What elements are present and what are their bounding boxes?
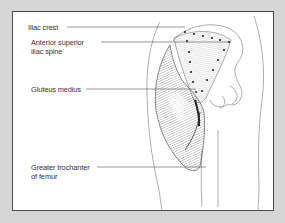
label-gluteus-medius: Gluteus medius: [31, 85, 81, 94]
label-greater-trochanter: Greater trochanter of femur: [31, 163, 90, 181]
hip-anatomy-illustration: [0, 0, 285, 223]
label-anterior-superior-iliac-spine: Anterior superior iliac spine: [31, 38, 84, 56]
label-iliac-crest: Iliac crest: [28, 23, 58, 32]
